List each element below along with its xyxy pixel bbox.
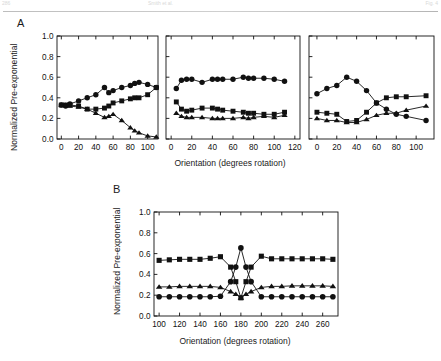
panel-a-chart-3: 020406080100	[303, 30, 439, 155]
panel-a-chart-1: 0.00.20.40.60.81.0020406080100	[32, 30, 162, 155]
svg-text:160: 160	[214, 320, 228, 329]
svg-text:100: 100	[409, 143, 423, 152]
svg-text:0: 0	[59, 143, 64, 152]
svg-text:40: 40	[91, 143, 101, 152]
panel-a-chart-2-svg: 020406080100120	[160, 30, 305, 155]
svg-text:0.8: 0.8	[42, 53, 54, 62]
panel-a-y-axis-title: Normalized Pre-exponential	[9, 31, 19, 151]
svg-text:0.6: 0.6	[139, 250, 151, 259]
svg-text:140: 140	[193, 320, 207, 329]
svg-text:0.0: 0.0	[42, 135, 54, 144]
svg-text:0.0: 0.0	[139, 312, 151, 321]
svg-text:0.6: 0.6	[42, 73, 54, 82]
svg-text:80: 80	[392, 143, 402, 152]
svg-text:20: 20	[332, 143, 342, 152]
panel-a-chart-2: 020406080100120	[160, 30, 305, 155]
svg-text:20: 20	[74, 143, 84, 152]
svg-text:1.0: 1.0	[42, 32, 54, 41]
svg-text:80: 80	[249, 143, 259, 152]
svg-text:40: 40	[208, 143, 218, 152]
svg-text:100: 100	[267, 143, 281, 152]
svg-text:0.4: 0.4	[139, 270, 151, 279]
svg-text:0: 0	[315, 143, 320, 152]
svg-text:1.0: 1.0	[139, 208, 151, 217]
svg-text:100: 100	[152, 320, 166, 329]
panel-b-chart-svg: 0.00.20.40.60.81.01001201401601802002202…	[128, 205, 343, 333]
svg-text:80: 80	[126, 143, 136, 152]
svg-text:220: 220	[275, 320, 289, 329]
svg-text:0.2: 0.2	[42, 114, 54, 123]
svg-text:260: 260	[316, 320, 330, 329]
svg-text:240: 240	[295, 320, 309, 329]
svg-text:120: 120	[288, 143, 302, 152]
svg-text:180: 180	[234, 320, 248, 329]
panel-b-label: B	[113, 183, 120, 195]
svg-text:60: 60	[109, 143, 119, 152]
panel-b-chart: 0.00.20.40.60.81.01001201401601802002202…	[128, 205, 343, 333]
panel-a-x-axis-title: Orientation (degrees rotation)	[130, 158, 330, 168]
header-rule	[3, 11, 438, 12]
header-middle-text: Smith et al.	[148, 0, 173, 6]
panel-a-chart-3-svg: 020406080100	[303, 30, 439, 155]
svg-text:0.8: 0.8	[139, 229, 151, 238]
svg-text:100: 100	[141, 143, 155, 152]
svg-text:200: 200	[254, 320, 268, 329]
svg-text:0: 0	[169, 143, 174, 152]
panel-b-y-axis-title: Normalized Pre-exponential	[112, 207, 122, 315]
header-right-text: Fig. 4	[425, 0, 438, 6]
svg-text:60: 60	[228, 143, 238, 152]
header-left-text: 286	[2, 0, 10, 6]
panel-a-label: A	[17, 17, 24, 29]
svg-text:120: 120	[173, 320, 187, 329]
svg-text:0.2: 0.2	[139, 291, 151, 300]
svg-text:40: 40	[352, 143, 362, 152]
panel-b-x-axis-title: Orientation (degrees rotation)	[120, 336, 350, 346]
svg-text:0.4: 0.4	[42, 94, 54, 103]
svg-text:60: 60	[372, 143, 382, 152]
svg-text:20: 20	[187, 143, 197, 152]
panel-a-chart-1-svg: 0.00.20.40.60.81.0020406080100	[32, 30, 162, 155]
